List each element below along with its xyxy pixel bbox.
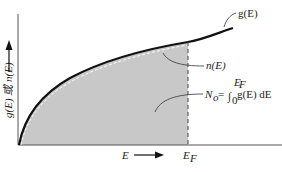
x-axis-label: E [121,149,129,161]
fermi-label-sub: F [189,152,197,164]
integrand: g(E) dE [237,88,272,101]
y-arrow-head [6,40,13,50]
g-leader-line [224,13,236,27]
n-label: n(E) [206,59,226,72]
density-of-states-diagram: g(E) n(E) N o = ∫ E F 0 g(E) dE E E F g(… [0,0,282,172]
No-formula: N o = ∫ E F 0 g(E) dE [204,76,272,106]
fermi-label: E [182,149,190,161]
x-arrow-head [155,152,164,159]
No-symbol: N [204,88,213,100]
g-label: g(E) [238,7,258,20]
occupied-states-area [19,42,188,145]
No-equals: = [218,88,224,100]
